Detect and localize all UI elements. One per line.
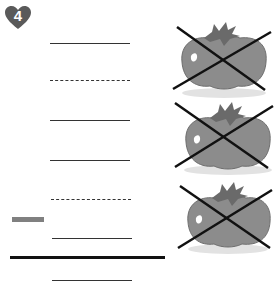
answer-line-6[interactable]	[52, 238, 132, 239]
crossed-tomato-1	[172, 22, 276, 102]
answer-line-2-dashed[interactable]	[50, 80, 130, 81]
problem-number-badge: 4	[5, 6, 31, 30]
cross-out-icon	[172, 182, 276, 262]
cross-out-icon	[172, 100, 276, 180]
sum-divider-line	[10, 256, 165, 259]
answer-line-result[interactable]	[52, 280, 132, 281]
answer-line-1[interactable]	[50, 43, 130, 44]
minus-sign	[12, 217, 44, 222]
answer-line-4[interactable]	[50, 160, 130, 161]
answer-line-5-dashed[interactable]	[51, 199, 131, 200]
crossed-tomato-3	[172, 182, 276, 262]
answer-line-3[interactable]	[50, 120, 130, 121]
cross-out-icon	[172, 22, 276, 102]
problem-number: 4	[5, 7, 31, 25]
crossed-tomato-2	[172, 100, 276, 180]
